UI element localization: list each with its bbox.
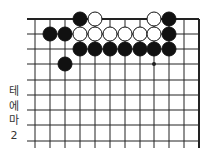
black-stone bbox=[162, 12, 176, 26]
black-stone bbox=[147, 42, 161, 56]
black-stone bbox=[118, 42, 132, 56]
star-points bbox=[152, 62, 156, 66]
white-stone bbox=[118, 27, 132, 41]
star-point bbox=[152, 62, 156, 66]
black-stone bbox=[88, 42, 102, 56]
white-stone bbox=[133, 27, 147, 41]
white-stone bbox=[88, 12, 102, 26]
black-stone bbox=[133, 42, 147, 56]
black-stone bbox=[162, 42, 176, 56]
caption-char-2: 에 bbox=[6, 100, 22, 114]
black-stone bbox=[73, 12, 87, 26]
black-stone bbox=[58, 57, 72, 71]
white-stone bbox=[147, 27, 161, 41]
black-stone bbox=[58, 27, 72, 41]
black-stone bbox=[73, 42, 87, 56]
black-stone bbox=[103, 42, 117, 56]
go-board bbox=[0, 0, 213, 162]
caption-char-1: 테 bbox=[6, 85, 22, 99]
black-stone bbox=[162, 27, 176, 41]
caption-char-3: 마 bbox=[6, 114, 22, 128]
caption-char-4: 2 bbox=[6, 129, 22, 143]
white-stone bbox=[88, 27, 102, 41]
black-stone bbox=[43, 27, 57, 41]
white-stone bbox=[103, 27, 117, 41]
white-stone bbox=[147, 12, 161, 26]
white-stone bbox=[73, 27, 87, 41]
